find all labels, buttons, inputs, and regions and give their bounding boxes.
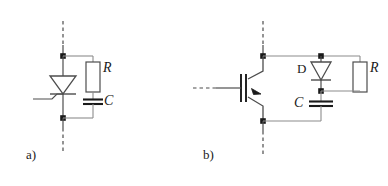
label-diode-D-panel-b: D	[297, 62, 306, 75]
figure-canvas: R C a) D R C b)	[0, 0, 388, 186]
thyristor-triangle-icon	[50, 76, 76, 94]
igbt-collector-lead	[248, 56, 263, 79]
circuit-diagram-svg	[0, 0, 388, 186]
igbt-emitter-lead	[248, 97, 263, 121]
label-resistor-R-panel-b: R	[370, 61, 379, 75]
diode-D-triangle-icon	[311, 62, 331, 80]
panel-a-circuit	[33, 21, 103, 152]
resistor-R-panel-a	[86, 62, 100, 92]
panel-b-circuit	[190, 21, 367, 155]
label-resistor-R-panel-a: R	[103, 61, 112, 75]
label-capacitor-C-panel-b: C	[294, 96, 303, 110]
label-capacitor-C-panel-a: C	[104, 94, 113, 108]
caption-panel-b: b)	[203, 148, 214, 161]
resistor-R-panel-b	[353, 62, 367, 92]
igbt-emitter-arrow-icon	[252, 89, 262, 95]
thyristor-gate-lead	[33, 94, 63, 99]
caption-panel-a: a)	[26, 148, 36, 161]
